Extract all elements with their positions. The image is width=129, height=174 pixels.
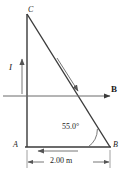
vertex-label-c: C <box>28 6 33 14</box>
dimension-label: 2.00 m <box>48 157 74 165</box>
vertex-label-b: B <box>113 141 118 149</box>
current-label: I <box>9 63 12 72</box>
physics-diagram-figure: C A B I B 55.0° 2.00 m <box>0 0 129 174</box>
vertex-label-a: A <box>13 141 18 149</box>
angle-arc-at-b <box>88 129 97 147</box>
angle-label: 55.0° <box>62 123 79 131</box>
magnetic-field-label: B <box>111 85 117 94</box>
current-arrow-hypotenuse <box>57 58 78 91</box>
diagram-canvas <box>0 0 129 174</box>
